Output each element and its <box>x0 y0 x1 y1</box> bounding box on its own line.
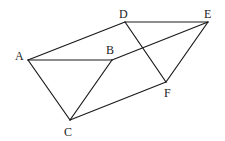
segment-be <box>112 22 208 60</box>
segment-cf <box>70 82 166 120</box>
vertex-label-f: F <box>164 86 171 100</box>
diagram-canvas: ABCDEF <box>0 0 225 141</box>
vertex-label-a: A <box>15 49 24 63</box>
vertex-label-d: D <box>119 7 128 21</box>
segment-ef <box>166 22 208 82</box>
segment-bc <box>70 60 112 120</box>
vertex-label-c: C <box>64 125 72 139</box>
geometry-diagram: ABCDEF <box>0 0 225 141</box>
diagram-edges <box>28 22 208 120</box>
vertex-label-e: E <box>204 7 211 21</box>
segment-ac <box>28 60 70 120</box>
vertex-label-b: B <box>106 43 114 57</box>
